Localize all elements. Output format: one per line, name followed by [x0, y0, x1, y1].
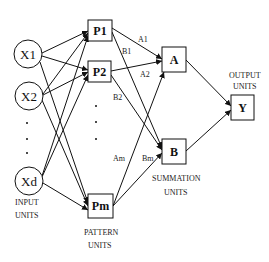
- ellipsis-dot: [95, 105, 97, 107]
- ellipsis-dot: [95, 121, 97, 123]
- weight-labels: A1 B1 A2 B2 Am Bm: [113, 35, 154, 163]
- edge-x2-p2: [43, 72, 88, 95]
- weight-label-a2: A2: [140, 70, 150, 79]
- output-units: Y OUTPUT UNITS: [229, 71, 261, 120]
- edge-p2-b: [111, 75, 162, 150]
- edge-p1-b: [112, 32, 162, 148]
- output-caption-line2: UNITS: [233, 82, 257, 91]
- input-label-xd: Xd: [21, 174, 37, 189]
- summation-caption-line1: SUMMATION: [152, 174, 201, 183]
- input-caption-line1: INPUT: [15, 198, 39, 207]
- output-caption-line1: OUTPUT: [229, 71, 261, 80]
- edge-xd-p1: [42, 36, 88, 176]
- ellipsis-dot: [26, 152, 28, 154]
- edge-x1-pm: [40, 62, 88, 203]
- edge-xd-pm: [43, 183, 88, 210]
- edge-p1-a: [112, 28, 162, 59]
- edge-x2-pm: [42, 100, 88, 206]
- output-label-y: Y: [238, 101, 247, 115]
- input-label-x2: X2: [21, 89, 37, 104]
- edges: [40, 28, 231, 210]
- summation-label-a: A: [170, 53, 179, 67]
- summation-units: A B SUMMATION UNITS: [152, 47, 201, 197]
- pattern-caption-line1: PATTERN: [84, 228, 119, 237]
- summation-caption-line2: UNITS: [164, 188, 188, 197]
- input-label-x1: X1: [20, 47, 36, 62]
- ellipsis-dot: [95, 138, 97, 140]
- pattern-label-p1: P1: [93, 24, 106, 38]
- ellipsis-dot: [26, 122, 28, 124]
- edge-xd-p2: [42, 75, 88, 177]
- summation-label-b: B: [170, 145, 178, 159]
- pattern-label-pm: Pm: [92, 199, 109, 213]
- pattern-label-p2: P2: [93, 65, 106, 79]
- weight-label-bm: Bm: [142, 154, 154, 163]
- grnn-diagram: X1 X2 Xd INPUT UNITS P1 P2 Pm PATTERN UN…: [0, 0, 269, 262]
- weight-label-b2: B2: [113, 93, 122, 102]
- weight-label-b1: B1: [122, 47, 131, 56]
- weight-label-a1: A1: [138, 35, 148, 44]
- edge-p2-a: [111, 61, 162, 71]
- edge-a-y: [186, 60, 231, 106]
- input-units: X1 X2 Xd INPUT UNITS: [14, 40, 43, 220]
- weight-label-am: Am: [113, 154, 126, 163]
- ellipsis-dot: [26, 138, 28, 140]
- input-caption-line2: UNITS: [15, 211, 39, 220]
- pattern-caption-line2: UNITS: [88, 241, 112, 250]
- pattern-units: P1 P2 Pm PATTERN UNITS: [84, 20, 119, 250]
- edge-b-y: [186, 110, 231, 151]
